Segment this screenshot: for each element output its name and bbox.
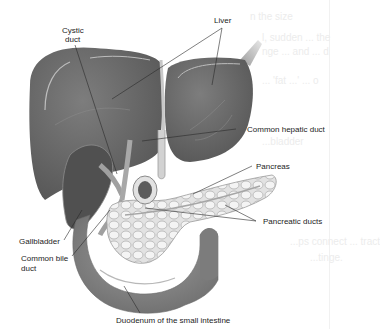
bleed-text: ... 'fat ...' ... o — [262, 75, 319, 86]
bleed-text: ...tinge. — [310, 252, 343, 263]
bleed-text: ...bladder — [262, 136, 304, 147]
label-gallbladder: Gallbladder — [19, 237, 60, 246]
bleed-text: l, sudden ... the — [262, 32, 330, 43]
page-gutter — [329, 0, 330, 329]
label-cystic-duct-line1: Cystic — [62, 26, 84, 35]
bleed-text: ...ps connect ... tract — [290, 236, 380, 247]
label-common-hepatic-duct: Common hepatic duct — [247, 125, 325, 134]
label-cystic-duct-line2: duct — [65, 35, 80, 44]
liver-left-lobe — [165, 58, 253, 162]
bleed-text: n the size — [250, 11, 293, 22]
label-common-bile-duct-line2: duct — [21, 264, 36, 273]
label-common-bile-duct-line1: Common bile — [21, 254, 68, 263]
label-duodenum: Duodenum of the small intestine — [116, 316, 230, 325]
label-liver: Liver — [214, 16, 231, 25]
bleed-text: nge ... and ... d — [262, 46, 329, 57]
label-pancreatic-ducts: Pancreatic ducts — [263, 217, 322, 226]
label-pancreas: Pancreas — [256, 162, 290, 171]
